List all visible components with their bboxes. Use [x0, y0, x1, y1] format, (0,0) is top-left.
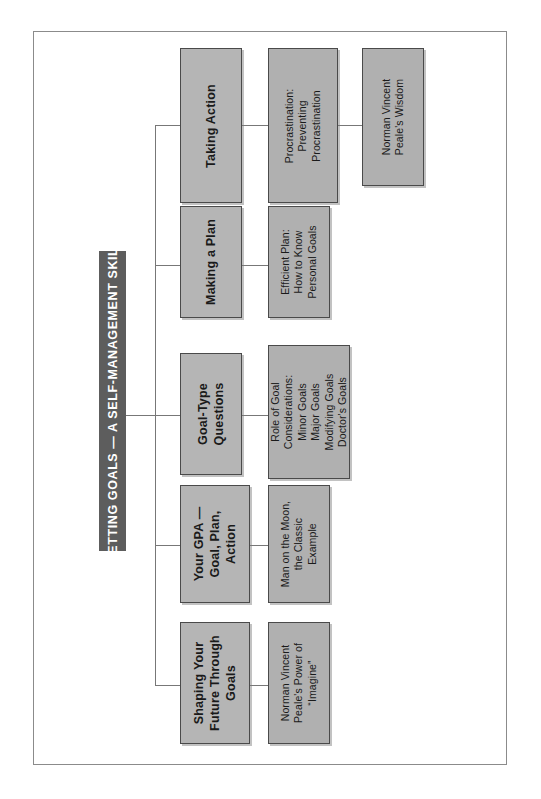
- connector-stub-your-gpa: [155, 545, 180, 546]
- connector-title-to-spine: [126, 415, 155, 416]
- node-peales-power-of-imagine[interactable]: Norman Vincent Peale's Power of “Imagine…: [268, 622, 330, 744]
- connector-stub-shaping-your-future: [155, 685, 180, 686]
- node-shaping-your-future-label: Shaping Your Future Through Goals: [191, 635, 239, 731]
- page-title: SETTING GOALS — A SELF-MANAGEMENT SKILL: [106, 239, 120, 562]
- node-man-on-the-moon-label: Man on the Moon, the Classic Example: [279, 501, 319, 587]
- connector-spine: [155, 125, 156, 685]
- node-norman-vincent-peales-wisdom[interactable]: Norman Vincent Peale's Wisdom: [362, 48, 424, 186]
- node-goal-type-questions-label: Goal-Type Questions: [195, 383, 227, 446]
- node-efficient-plan-label: Efficient Plan: How to Know Personal Goa…: [279, 225, 319, 298]
- connector-stub-taking-action: [155, 125, 180, 126]
- node-procrastination-label: Procrastination: Preventing Procrastinat…: [283, 88, 323, 163]
- node-taking-action[interactable]: Taking Action: [180, 48, 242, 203]
- node-man-on-the-moon[interactable]: Man on the Moon, the Classic Example: [268, 485, 330, 603]
- connector-stub-making-a-plan: [155, 265, 180, 266]
- node-your-gpa-label: Your GPA — Goal, Plan, Action: [191, 507, 239, 582]
- node-efficient-plan[interactable]: Efficient Plan: How to Know Personal Goa…: [268, 206, 330, 318]
- node-making-a-plan-label: Making a Plan: [203, 219, 219, 305]
- connector-taking-action-to-sub: [242, 125, 268, 126]
- node-role-of-goal-considerations[interactable]: Role of Goal Considerations: Minor Goals…: [268, 345, 350, 479]
- node-peales-power-of-imagine-label: Norman Vincent Peale's Power of “Imagine…: [279, 643, 319, 723]
- diagram-title-bar: SETTING GOALS — A SELF-MANAGEMENT SKILL: [99, 251, 126, 551]
- connector-making-a-plan-to-sub: [242, 265, 268, 266]
- connector-goal-type-to-sub: [242, 415, 268, 416]
- node-your-gpa[interactable]: Your GPA — Goal, Plan, Action: [180, 485, 250, 603]
- node-norman-vincent-peales-wisdom-label: Norman Vincent Peale's Wisdom: [380, 79, 407, 156]
- node-procrastination[interactable]: Procrastination: Preventing Procrastinat…: [268, 48, 338, 203]
- connector-stub-goal-type-questions: [155, 415, 180, 416]
- connector-procrastination-to-wisdom: [338, 125, 362, 126]
- node-shaping-your-future[interactable]: Shaping Your Future Through Goals: [180, 622, 250, 744]
- node-taking-action-label: Taking Action: [203, 84, 219, 168]
- node-goal-type-questions[interactable]: Goal-Type Questions: [180, 353, 242, 475]
- node-making-a-plan[interactable]: Making a Plan: [180, 206, 242, 318]
- diagram-page: SETTING GOALS — A SELF-MANAGEMENT SKILL …: [0, 0, 541, 799]
- node-role-of-goal-considerations-label: Role of Goal Considerations: Minor Goals…: [269, 374, 350, 451]
